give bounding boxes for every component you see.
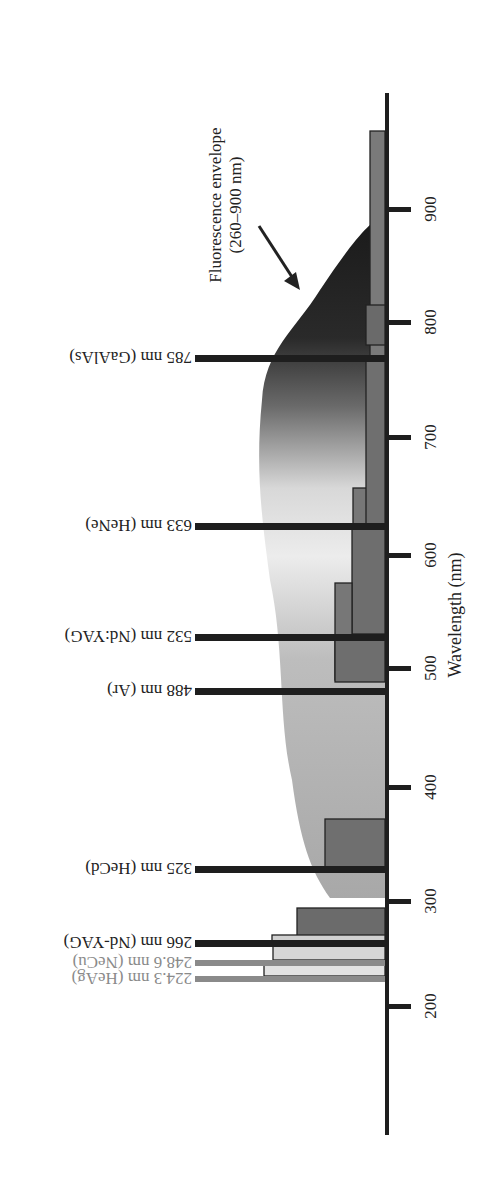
tick-label-800: 800 bbox=[421, 309, 440, 335]
tick-label-600: 600 bbox=[421, 542, 440, 568]
band-532 bbox=[352, 527, 385, 634]
band-633-b bbox=[366, 358, 385, 526]
tick-label-200: 200 bbox=[421, 993, 440, 1019]
x-axis-line bbox=[385, 93, 389, 1135]
laser-line-488 bbox=[195, 688, 385, 695]
tick-label-400: 400 bbox=[421, 774, 440, 800]
laser-line-785 bbox=[195, 355, 385, 362]
tick-label-900: 900 bbox=[421, 196, 440, 222]
label-325: 325 nm (HeCd) bbox=[85, 859, 192, 878]
band-224 bbox=[264, 965, 385, 976]
label-532: 532 nm (Nd:YAG) bbox=[65, 627, 193, 646]
tick-label-700: 700 bbox=[421, 424, 440, 450]
annotation-arrow-icon bbox=[259, 226, 300, 290]
label-488: 488 nm (Ar) bbox=[107, 681, 192, 700]
band-785-inner bbox=[366, 305, 385, 345]
x-axis-label: Wavelength (nm) bbox=[445, 552, 466, 677]
band-266-top bbox=[297, 908, 385, 936]
laser-line-248 bbox=[195, 960, 385, 966]
band-488-b bbox=[335, 640, 385, 682]
tick-label-500: 500 bbox=[421, 655, 440, 681]
tick-label-300: 300 bbox=[421, 888, 440, 914]
label-785: 785 nm (GaAlAs) bbox=[69, 348, 192, 367]
label-266: 266 nm (Nd-YAG) bbox=[64, 933, 192, 952]
label-224: 224.3 nm (HeAg) bbox=[72, 969, 192, 988]
laser-labels: 785 nm (GaAlAs) 633 nm (HeNe) 532 nm (Nd… bbox=[64, 348, 192, 988]
axis-ticks bbox=[389, 207, 411, 1009]
laser-line-532 bbox=[195, 634, 385, 641]
raman-excitation-chart: 200 300 400 500 600 700 800 900 Waveleng… bbox=[0, 0, 492, 1177]
envelope-annotation: Fluorescence envelope (260–900 nm) bbox=[206, 127, 245, 282]
annotation-line1: Fluorescence envelope bbox=[206, 127, 225, 282]
laser-line-633 bbox=[195, 523, 385, 530]
laser-line-325 bbox=[195, 866, 385, 873]
laser-line-224 bbox=[195, 976, 385, 982]
band-325 bbox=[325, 819, 385, 867]
label-633: 633 nm (HeNe) bbox=[85, 516, 192, 535]
laser-line-266 bbox=[195, 940, 385, 947]
tick-labels: 200 300 400 500 600 700 800 900 bbox=[421, 196, 440, 1019]
annotation-line2: (260–900 nm) bbox=[226, 157, 245, 254]
